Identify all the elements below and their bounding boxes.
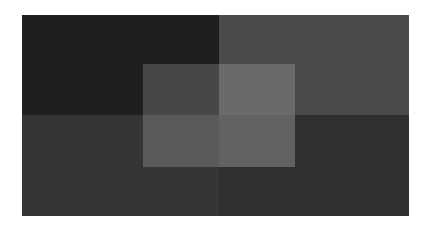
inner-top-left-block — [143, 64, 219, 115]
inner-bottom-left-block — [143, 115, 219, 167]
inner-bottom-right-block — [219, 115, 295, 167]
inner-top-right-block — [219, 64, 295, 115]
